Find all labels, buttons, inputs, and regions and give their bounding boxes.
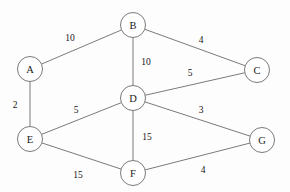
graph-edge-e-d <box>42 103 122 135</box>
graph-svg-canvas: ABCDEFG 10410525315154 <box>0 0 290 192</box>
graph-edge-d-c <box>145 73 245 95</box>
edge-weight-d-c: 5 <box>188 68 193 78</box>
edge-weights-layer: 10410525315154 <box>13 33 206 180</box>
graph-node-f[interactable]: F <box>121 161 146 186</box>
graph-edge-f-g <box>145 143 250 170</box>
edge-weight-d-f: 15 <box>142 132 152 142</box>
node-label-g: G <box>258 135 266 146</box>
node-label-e: E <box>27 134 33 145</box>
node-label-d: D <box>129 93 137 104</box>
graph-node-a[interactable]: A <box>18 57 43 82</box>
node-label-f: F <box>130 168 136 179</box>
nodes-layer: ABCDEFG <box>18 13 275 186</box>
graph-node-d[interactable]: D <box>121 86 146 111</box>
graph-edge-e-f <box>42 143 121 169</box>
edge-weight-e-d: 5 <box>74 105 79 115</box>
edge-weight-a-b: 10 <box>65 33 75 43</box>
graph-edge-b-c <box>145 29 245 65</box>
node-label-a: A <box>26 64 34 75</box>
node-label-b: B <box>129 20 136 31</box>
node-label-c: C <box>253 65 260 76</box>
edge-weight-e-f: 15 <box>73 170 83 180</box>
edge-weight-a-e: 2 <box>13 100 18 110</box>
graph-node-c[interactable]: C <box>245 58 270 83</box>
graph-node-e[interactable]: E <box>18 127 43 152</box>
graph-edge-d-g <box>145 102 250 136</box>
graph-node-b[interactable]: B <box>121 13 146 38</box>
graph-diagram: ABCDEFG 10410525315154 <box>0 0 290 192</box>
edge-weight-b-c: 4 <box>199 35 204 45</box>
graph-edge-a-b <box>41 30 121 64</box>
edge-weight-d-g: 3 <box>199 105 204 115</box>
edge-weight-b-d: 10 <box>141 57 151 67</box>
edge-weight-f-g: 4 <box>201 165 206 175</box>
graph-node-g[interactable]: G <box>250 128 275 153</box>
